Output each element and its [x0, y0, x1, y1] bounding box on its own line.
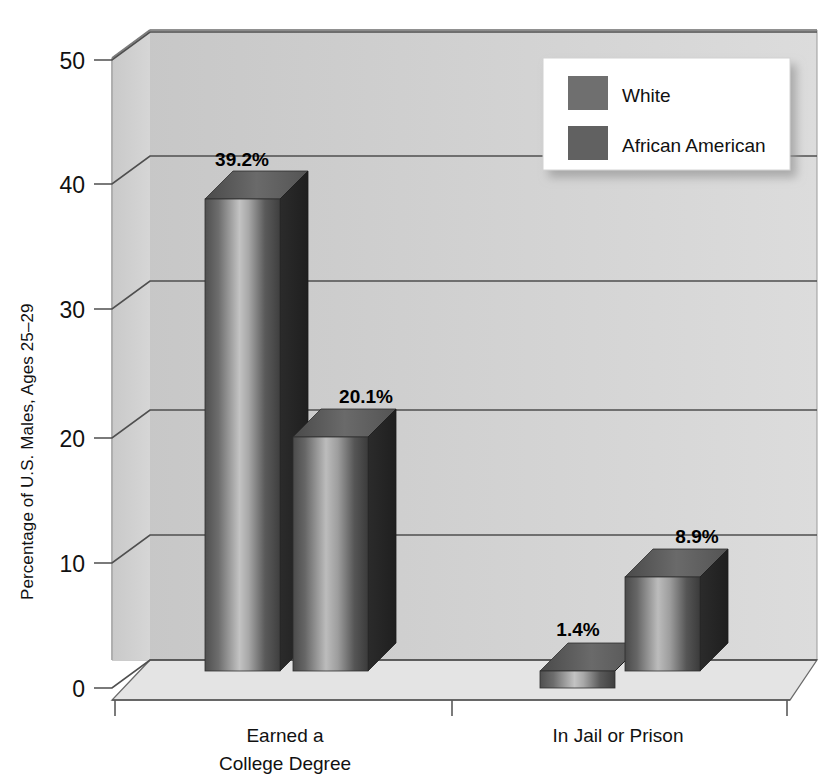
bar-side-face	[368, 409, 396, 671]
y-tick-label: 50	[59, 48, 85, 74]
bar-front-face	[205, 199, 280, 671]
y-axis-title: Percentage of U.S. Males, Ages 25–29	[18, 303, 37, 600]
bar-front-face	[625, 577, 700, 671]
y-tick-label: 40	[59, 172, 85, 198]
y-axis-tick-labels: 50 40 30 20 10 0	[59, 48, 85, 702]
y-tick-label: 20	[59, 426, 85, 452]
y-tick-label: 30	[59, 297, 85, 323]
legend-swatch-african-american	[568, 126, 608, 160]
legend[interactable]: White African American	[543, 58, 790, 170]
bar-african-american-jail[interactable]	[625, 549, 728, 671]
category-label-line: Earned a	[246, 725, 324, 746]
bar-value-label: 1.4%	[556, 619, 599, 640]
bar-front-face	[293, 437, 368, 671]
bar-value-label: 39.2%	[215, 149, 269, 170]
category-axis-ticks	[115, 700, 787, 716]
legend-label: African American	[622, 135, 766, 156]
bar-front-face	[540, 671, 615, 688]
bar-white-college[interactable]	[205, 171, 308, 671]
x-axis-category-labels: Earned a College Degree In Jail or Priso…	[219, 725, 683, 774]
y-tick-label: 10	[59, 551, 85, 577]
bar-chart-svg: 50 40 30 20 10 0 Percentage of U.S. Male…	[0, 0, 829, 781]
bar-value-label: 8.9%	[675, 526, 718, 547]
bar-african-american-college[interactable]	[293, 409, 396, 671]
category-label-line: College Degree	[219, 753, 351, 774]
chart-figure: 50 40 30 20 10 0 Percentage of U.S. Male…	[0, 0, 829, 781]
legend-swatch-white	[568, 76, 608, 110]
bar-value-label: 20.1%	[339, 386, 393, 407]
plot-left-wall	[112, 30, 150, 660]
y-tick-label: 0	[72, 676, 85, 702]
category-label-line: In Jail or Prison	[553, 725, 684, 746]
legend-label: White	[622, 85, 671, 106]
